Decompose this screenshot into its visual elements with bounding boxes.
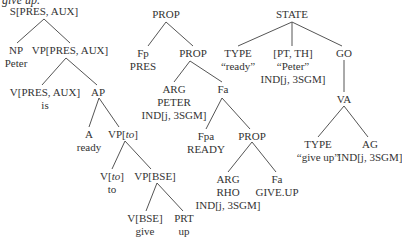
tree-node-arg-rho: ARGRHOIND[j, 3SGM] — [196, 173, 261, 212]
tree-node-ag: AGIND[j, 3SGM] — [338, 138, 402, 164]
tree-node-prop-root: PROP — [152, 8, 180, 21]
tree-node-go: GO — [336, 47, 352, 60]
tree-node-prop: PROP — [179, 47, 207, 60]
tree-node-vp: VP[PRES, AUX] — [32, 44, 108, 57]
tree-node-fa-giveup: FaGIVE.UP — [255, 173, 298, 199]
tree-node-ap: AP — [91, 86, 105, 99]
tree-node-s: S[PRES, AUX] — [10, 5, 78, 18]
tree-node-fp: FpPRES — [130, 47, 156, 73]
tree-node-prt: PRTup — [174, 212, 194, 238]
tree-node-v-bse: V[BSE]give — [127, 212, 162, 238]
tree-node-arg-peter: ARGPETERIND[j, 3SGM] — [142, 83, 207, 122]
tree-node-fa: Fa — [218, 83, 229, 96]
tree-node-pt-th: [PT, TH]“Peter”IND[j, 3SGM] — [261, 47, 326, 86]
tree-node-state: STATE — [276, 8, 308, 21]
tree-node-vp-bse: VP[BSE] — [134, 170, 176, 183]
tree-node-type-ready: TYPE“ready” — [221, 47, 255, 73]
tree-node-fpa: FpaREADY — [187, 130, 225, 156]
tree-node-v-to: V[to]to — [100, 170, 124, 196]
tree-node-prop-inner: PROP — [238, 130, 266, 143]
tree-node-v: V[PRES, AUX]is — [10, 86, 80, 112]
tree-node-type-giveup: TYPE“give up” — [297, 138, 339, 164]
tree-node-va: VA — [337, 93, 351, 106]
tree-node-vp-to: VP[to] — [108, 128, 138, 141]
tree-node-a: Aready — [77, 128, 101, 154]
tree-node-np: NPPeter — [5, 44, 28, 70]
